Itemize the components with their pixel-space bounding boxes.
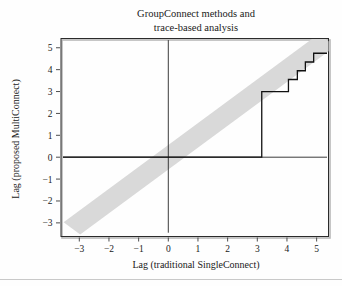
figure-page: GroupConnect methods and trace-based ana… — [0, 0, 342, 286]
x-tick-label: −3 — [74, 244, 84, 254]
y-tick-label: −3 — [42, 218, 52, 228]
y-tick-label: 3 — [48, 87, 53, 97]
x-tick-label: 4 — [285, 244, 290, 254]
x-tick-label: 0 — [166, 244, 171, 254]
lag-comparison-chart: GroupConnect methods and trace-based ana… — [0, 0, 342, 286]
y-tick-label: 4 — [48, 65, 53, 75]
x-tick-label: 2 — [225, 244, 230, 254]
chart-title-line-2: trace-based analysis — [154, 22, 238, 33]
x-tick-label: 5 — [314, 244, 319, 254]
y-axis-label: Lag (proposed MultiConnect) — [10, 79, 22, 198]
y-tick-label: −1 — [42, 175, 52, 185]
y-tick-label: −2 — [42, 196, 52, 206]
x-tick-label: −2 — [104, 244, 114, 254]
x-tick-label: 3 — [255, 244, 260, 254]
chart-title-line-1: GroupConnect methods and — [137, 8, 256, 19]
y-tick-label: 5 — [48, 43, 53, 53]
y-tick-label: 0 — [48, 153, 53, 163]
x-axis-label: Lag (traditional SingleConnect) — [132, 259, 259, 271]
x-tick-label: −1 — [134, 244, 144, 254]
x-tick-label: 1 — [196, 244, 201, 254]
y-tick-label: 2 — [48, 109, 53, 119]
y-tick-label: 1 — [48, 131, 53, 141]
